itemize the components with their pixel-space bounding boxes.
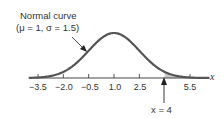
normal-curve — [30, 33, 209, 78]
tick-label: −3.5 — [29, 83, 47, 92]
tick-label: 1.0 — [109, 83, 122, 92]
tick-label: −2.0 — [55, 83, 73, 92]
tick-label: 5.5 — [184, 83, 197, 92]
curve-label-params: (μ = 1, σ = 1.5) — [16, 23, 79, 33]
marker-label: x = 4 — [151, 105, 172, 115]
tick-label: −0.5 — [81, 83, 99, 92]
curve-label-title: Normal curve — [20, 11, 77, 21]
tick-label: 2.5 — [134, 83, 147, 92]
x-axis-label: x — [210, 72, 214, 82]
